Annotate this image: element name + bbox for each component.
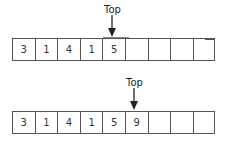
- top-label: Top: [126, 78, 143, 88]
- array-cell: 5: [102, 38, 125, 61]
- array-cell: 4: [57, 111, 80, 134]
- array-cell: 1: [80, 38, 103, 61]
- down-arrow-icon: [130, 88, 138, 110]
- top-pointer-after: Top: [126, 78, 143, 110]
- array-cell: [170, 38, 193, 61]
- array-cell: 5: [102, 111, 125, 134]
- array-cell: 1: [35, 38, 58, 61]
- top-label: Top: [104, 5, 121, 15]
- array-cell: [148, 111, 171, 134]
- array-cell: [125, 38, 148, 61]
- array-after: 3 1 4 1 5 9: [12, 111, 215, 134]
- array-cell: 3: [12, 111, 35, 134]
- array-cell: 1: [80, 111, 103, 134]
- array-cell: 4: [57, 38, 80, 61]
- array-cell: [170, 111, 193, 134]
- top-pointer-before: Top: [104, 5, 121, 37]
- array-before: 3 1 4 1 5: [12, 38, 215, 61]
- array-cell: [148, 38, 171, 61]
- array-cell: [193, 111, 216, 134]
- scan-artifact: [205, 38, 215, 40]
- array-cell: 9: [125, 111, 148, 134]
- array-cell: 3: [12, 38, 35, 61]
- array-cell: [193, 38, 216, 61]
- array-cell: 1: [35, 111, 58, 134]
- down-arrow-icon: [108, 15, 116, 37]
